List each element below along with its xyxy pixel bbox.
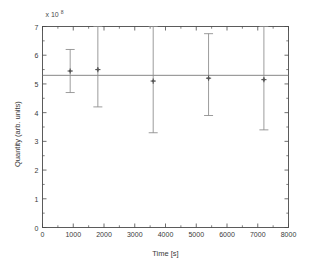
x-tick-label: 4000	[158, 231, 174, 238]
y-tick-label: 4	[27, 109, 39, 116]
x-tick-label: 5000	[188, 231, 204, 238]
x-tick-label: 7000	[250, 231, 266, 238]
data-marker	[152, 80, 155, 83]
data-point-group	[149, 27, 158, 133]
y-tick-label: 2	[27, 167, 39, 174]
plot-svg	[0, 0, 313, 266]
y-tick-label: 5	[27, 80, 39, 87]
y-tick-label: 7	[27, 23, 39, 30]
x-tick-label: 1000	[65, 231, 81, 238]
y-tick-label: 6	[27, 52, 39, 59]
data-point-group	[93, 27, 102, 107]
x-tick-label: 6000	[219, 231, 235, 238]
data-point-group	[259, 27, 268, 130]
data-point-group	[66, 49, 75, 92]
y-tick-label: 1	[27, 195, 39, 202]
x-tick-label: 3000	[127, 231, 143, 238]
x-tick-label: 0	[41, 231, 45, 238]
y-tick-label: 0	[27, 224, 39, 231]
figure-canvas: x 10 8 Quantity (arb. units) Time [s] 01…	[0, 0, 313, 266]
data-marker	[263, 78, 266, 81]
data-point-group	[204, 34, 213, 116]
data-marker	[69, 70, 72, 73]
data-marker	[97, 68, 100, 71]
data-marker	[207, 77, 210, 80]
x-tick-label: 8000	[281, 231, 297, 238]
plot-box	[43, 27, 289, 228]
y-tick-label: 3	[27, 138, 39, 145]
x-tick-label: 2000	[96, 231, 112, 238]
